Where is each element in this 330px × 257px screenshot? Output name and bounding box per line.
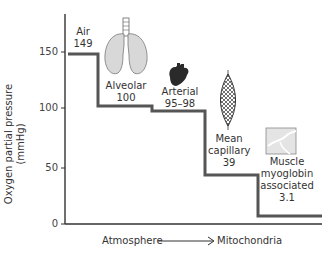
muscle-label-line2: myoglobin [258,168,316,180]
y-axis-label: Oxygen partial pressure (mmHg) [3,69,31,219]
air-label: Air [72,26,94,38]
annotation-air: Air 149 [72,26,94,50]
alveolar-value: 100 [102,92,150,104]
annotation-alveolar: Alveolar 100 [102,80,150,104]
muscle-tissue-icon [266,128,296,154]
alveolar-label: Alveolar [102,80,150,92]
y-tick-label-50: 50 [32,162,58,173]
capillary-bed-icon [216,70,240,130]
y-tick-label-100: 100 [32,102,58,113]
heart-icon [169,63,188,86]
x-axis-label-end: Mitochondria [217,235,282,246]
muscle-label-line1: Muscle [258,156,316,168]
annotation-capillary: Mean capillary 39 [208,133,250,169]
x-axis-label-start: Atmosphere [102,235,163,246]
y-tick-label-150: 150 [32,46,58,57]
capillary-label-line1: Mean [208,133,250,145]
arterial-value: 95–98 [158,98,202,110]
annotation-arterial: Arterial 95–98 [158,86,202,110]
capillary-value: 39 [208,157,250,169]
annotation-muscle: Muscle myoglobin associated 3.1 [258,156,316,204]
capillary-label-line2: capillary [208,145,250,157]
y-tick-label-0: 0 [32,218,58,229]
y-axis-label-line2: (mmHg) [15,69,27,219]
arterial-label: Arterial [158,86,202,98]
muscle-value: 3.1 [258,192,316,204]
chart-area: 150 100 50 0 Oxygen partial pressure (mm… [0,0,330,257]
muscle-label-line3: associated [258,180,316,192]
lungs-icon [105,18,147,74]
y-axis-label-line1: Oxygen partial pressure [3,69,15,219]
air-value: 149 [72,38,94,50]
